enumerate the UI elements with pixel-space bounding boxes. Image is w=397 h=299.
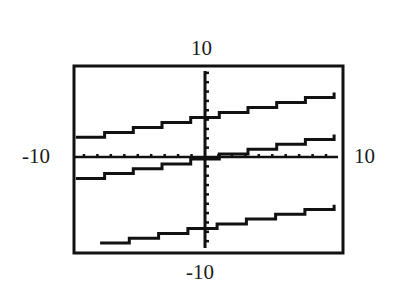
x-max-label: 10 bbox=[354, 146, 375, 167]
y-min-label: -10 bbox=[186, 262, 214, 283]
x-min-label: -10 bbox=[22, 146, 50, 167]
line-3 bbox=[100, 205, 334, 243]
y-max-label: 10 bbox=[191, 38, 212, 59]
